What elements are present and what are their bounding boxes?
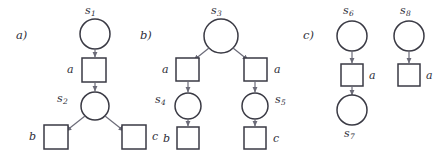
place-label-s7: s7	[344, 128, 355, 140]
place-s8	[394, 21, 424, 51]
transition-label-a-left: a	[162, 64, 169, 75]
panel-label-b: b)	[140, 30, 152, 42]
place-label-s8: s8	[400, 5, 411, 17]
transition-a-right	[398, 64, 420, 86]
transition-a-right	[244, 58, 267, 81]
transition-a-left	[176, 58, 199, 81]
arc-s2-to-c	[105, 116, 124, 131]
place-s3	[204, 19, 238, 53]
place-label-s7-base: s	[344, 127, 350, 140]
place-label-s2-base: s	[57, 92, 63, 105]
diagram-graphics	[0, 0, 442, 154]
place-label-s4-sub: 4	[161, 98, 166, 107]
place-label-s2-sub: 2	[63, 97, 68, 106]
transition-b	[44, 125, 68, 149]
transition-label-c: c	[152, 131, 158, 142]
transition-label-b: b	[163, 133, 170, 144]
transition-c	[244, 127, 266, 149]
place-label-s6-sub: 6	[349, 9, 354, 18]
transition-a-left	[341, 64, 363, 86]
panel-b-graphics	[175, 19, 268, 149]
place-label-s1-sub: 1	[91, 9, 96, 18]
place-label-s4: s4	[155, 94, 166, 106]
place-label-s3-sub: 3	[217, 9, 222, 18]
place-s1	[80, 19, 110, 49]
transition-c	[122, 125, 146, 149]
place-label-s4-base: s	[155, 93, 161, 106]
place-label-s8-base: s	[400, 4, 406, 17]
transition-b	[177, 127, 199, 149]
transition-label-a-left: a	[369, 70, 376, 81]
place-label-s3-base: s	[211, 4, 217, 17]
transition-label-a-right: a	[274, 64, 281, 75]
place-s2	[81, 92, 109, 120]
place-label-s5-sub: 5	[281, 98, 286, 107]
panel-a-graphics	[44, 19, 146, 149]
place-s7	[337, 95, 367, 125]
transition-label-a: a	[67, 64, 74, 75]
place-s6	[337, 21, 367, 51]
petri-net-figure: a) b) c) s1 a s2 b c s3 a a s4 s5 b c s6…	[0, 0, 442, 154]
place-label-s5: s5	[275, 94, 286, 106]
transition-label-c: c	[273, 133, 279, 144]
place-label-s7-sub: 7	[350, 132, 355, 141]
place-label-s8-sub: 8	[406, 9, 411, 18]
transition-label-a-right: a	[426, 70, 433, 81]
place-label-s1-base: s	[85, 4, 91, 17]
transition-a	[82, 58, 106, 82]
place-label-s5-base: s	[275, 93, 281, 106]
place-label-s3: s3	[211, 5, 222, 17]
transition-label-b: b	[29, 131, 36, 142]
panel-label-a: a)	[16, 30, 27, 42]
place-s5	[242, 93, 268, 119]
panel-label-c: c)	[303, 30, 314, 42]
place-label-s6-base: s	[343, 4, 349, 17]
arc-s2-to-b	[66, 116, 85, 131]
place-s4	[175, 93, 201, 119]
place-label-s2: s2	[57, 93, 68, 105]
place-label-s6: s6	[343, 5, 354, 17]
place-label-s1: s1	[85, 5, 96, 17]
panel-c-graphics	[337, 21, 424, 125]
